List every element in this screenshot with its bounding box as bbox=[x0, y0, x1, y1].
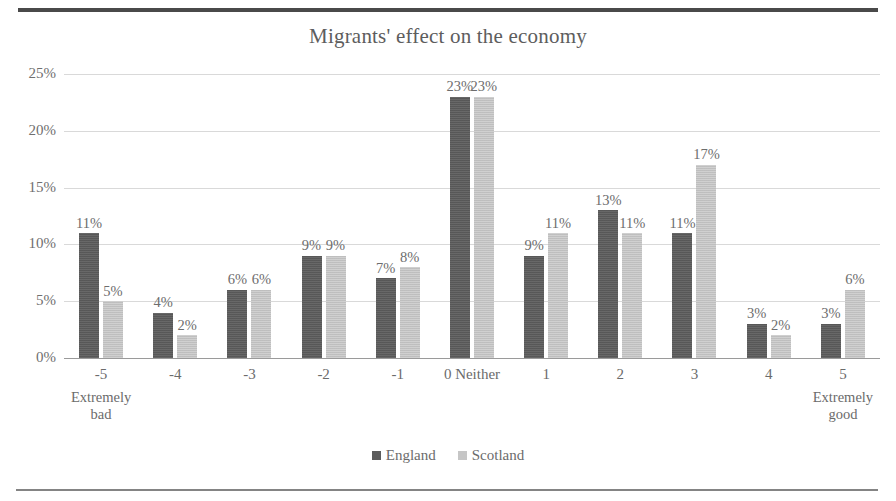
x-tick-label: 4 bbox=[732, 366, 806, 384]
x-tick-label-main: 1 bbox=[542, 366, 550, 382]
bar-england[interactable]: 3% bbox=[821, 324, 841, 358]
y-tick-label-20: 20% bbox=[4, 123, 56, 138]
legend-swatch-icon bbox=[458, 451, 467, 460]
bar-fill bbox=[177, 335, 197, 358]
bar-fill bbox=[227, 290, 247, 358]
y-tick-label-15: 15% bbox=[4, 180, 56, 195]
bar-scotland[interactable]: 11% bbox=[548, 233, 568, 358]
bar-fill bbox=[598, 210, 618, 358]
bar-england[interactable]: 9% bbox=[302, 256, 322, 358]
x-tick-label: -4 bbox=[138, 366, 212, 384]
bar-england[interactable]: 6% bbox=[227, 290, 247, 358]
bar-england[interactable]: 9% bbox=[524, 256, 544, 358]
x-tick-label: 1 bbox=[509, 366, 583, 384]
bar-group: 23%23% bbox=[435, 74, 509, 358]
bar-fill bbox=[376, 278, 396, 358]
bar-fill bbox=[400, 267, 420, 358]
bar-value-label: 11% bbox=[613, 216, 651, 231]
bar-group: 3%2% bbox=[732, 74, 806, 358]
x-axis-line bbox=[64, 358, 880, 359]
plot-area: 11%5%-5Extremely bad4%2%-46%6%-39%9%-27%… bbox=[64, 74, 880, 358]
bar-group: 11%5% bbox=[64, 74, 138, 358]
bar-fill bbox=[103, 301, 123, 358]
bar-scotland[interactable]: 6% bbox=[251, 290, 271, 358]
bar-england[interactable]: 23% bbox=[450, 97, 470, 358]
bar-group: 7%8% bbox=[361, 74, 435, 358]
bar-value-label: 2% bbox=[168, 318, 206, 333]
bar-scotland[interactable]: 6% bbox=[845, 290, 865, 358]
bar-value-label: 11% bbox=[539, 216, 577, 231]
x-tick-label-sub: Extremely bad bbox=[64, 389, 138, 423]
y-tick-label-25: 25% bbox=[4, 66, 56, 81]
x-tick-label: -3 bbox=[212, 366, 286, 384]
bar-scotland[interactable]: 2% bbox=[177, 335, 197, 358]
bar-value-label: 23% bbox=[465, 79, 503, 94]
bar-value-label: 6% bbox=[242, 272, 280, 287]
x-tick-label-main: 4 bbox=[765, 366, 773, 382]
x-tick-label-sub: Extremely good bbox=[806, 389, 880, 423]
bar-fill bbox=[771, 335, 791, 358]
bar-scotland[interactable]: 9% bbox=[326, 256, 346, 358]
bar-england[interactable]: 7% bbox=[376, 278, 396, 358]
bar-scotland[interactable]: 17% bbox=[696, 165, 716, 358]
legend-item-scotland[interactable]: Scotland bbox=[458, 447, 525, 464]
legend-label: England bbox=[386, 447, 436, 463]
bar-fill bbox=[251, 290, 271, 358]
bar-value-label: 6% bbox=[836, 272, 874, 287]
x-tick-label-main: -4 bbox=[169, 366, 182, 382]
chart-legend: EnglandScotland bbox=[0, 447, 896, 464]
x-tick-label: -2 bbox=[287, 366, 361, 384]
bar-fill bbox=[622, 233, 642, 358]
bar-value-label: 5% bbox=[94, 284, 132, 299]
x-tick-label: 3 bbox=[658, 366, 732, 384]
x-tick-label: 5Extremely good bbox=[806, 366, 880, 423]
bar-england[interactable]: 13% bbox=[598, 210, 618, 358]
x-tick-label: 0 Neither bbox=[435, 366, 509, 384]
x-tick-label-main: -3 bbox=[243, 366, 256, 382]
bar-value-label: 13% bbox=[589, 193, 627, 208]
bar-value-label: 11% bbox=[70, 216, 108, 231]
x-tick-label-main: 5 bbox=[839, 366, 847, 382]
x-tick-label-main: -2 bbox=[317, 366, 330, 382]
bar-fill bbox=[326, 256, 346, 358]
bar-scotland[interactable]: 8% bbox=[400, 267, 420, 358]
chart-figure: Migrants' effect on the economy 0%5%10%1… bbox=[0, 0, 896, 501]
x-tick-label-main: 3 bbox=[691, 366, 699, 382]
y-tick-label-0: 0% bbox=[4, 350, 56, 365]
bar-fill bbox=[845, 290, 865, 358]
x-tick-label-main: 0 Neither bbox=[444, 366, 500, 382]
bar-fill bbox=[302, 256, 322, 358]
bar-value-label: 17% bbox=[687, 147, 725, 162]
bar-group: 9%11% bbox=[509, 74, 583, 358]
bar-group: 13%11% bbox=[583, 74, 657, 358]
bar-england[interactable]: 11% bbox=[672, 233, 692, 358]
bar-fill bbox=[672, 233, 692, 358]
bar-group: 9%9% bbox=[287, 74, 361, 358]
legend-label: Scotland bbox=[472, 447, 525, 463]
bar-fill bbox=[696, 165, 716, 358]
bar-value-label: 8% bbox=[391, 250, 429, 265]
bar-fill bbox=[450, 97, 470, 358]
bar-group: 6%6% bbox=[212, 74, 286, 358]
y-tick-label-5: 5% bbox=[4, 293, 56, 308]
bar-group: 3%6% bbox=[806, 74, 880, 358]
bar-scotland[interactable]: 23% bbox=[474, 97, 494, 358]
bar-value-label: 4% bbox=[144, 295, 182, 310]
bar-group: 11%17% bbox=[657, 74, 731, 358]
x-tick-label-main: 2 bbox=[617, 366, 625, 382]
bar-fill bbox=[474, 97, 494, 358]
bar-scotland[interactable]: 2% bbox=[771, 335, 791, 358]
x-tick-label: -1 bbox=[361, 366, 435, 384]
x-tick-label-main: -1 bbox=[392, 366, 405, 382]
bar-fill bbox=[821, 324, 841, 358]
bar-value-label: 9% bbox=[317, 238, 355, 253]
y-tick-label-10: 10% bbox=[4, 236, 56, 251]
x-tick-label: 2 bbox=[583, 366, 657, 384]
bar-scotland[interactable]: 5% bbox=[103, 301, 123, 358]
legend-swatch-icon bbox=[372, 451, 381, 460]
bar-scotland[interactable]: 11% bbox=[622, 233, 642, 358]
legend-item-england[interactable]: England bbox=[372, 447, 436, 464]
bar-fill bbox=[524, 256, 544, 358]
bar-group: 4%2% bbox=[138, 74, 212, 358]
bar-fill bbox=[548, 233, 568, 358]
